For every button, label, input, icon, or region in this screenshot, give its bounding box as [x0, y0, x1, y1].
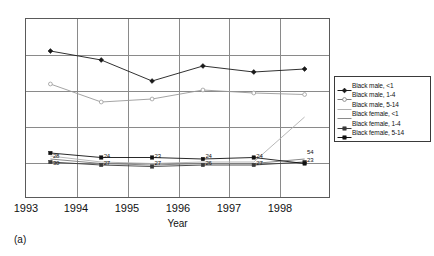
legend-label: Black male, 5-14 [352, 100, 399, 109]
data-point-marker [99, 58, 104, 63]
legend-marker-line-icon [337, 109, 352, 118]
point-label-upper: 23 [155, 153, 161, 159]
data-point-marker [303, 162, 306, 165]
xtick-1997: 1997 [204, 202, 254, 214]
legend-label: Black female, <1 [352, 109, 399, 118]
data-point-marker [201, 64, 206, 69]
point-label-upper: 24 [205, 153, 211, 159]
point-label-upper: 24 [104, 153, 110, 159]
xtick-1993: 1993 [1, 202, 51, 214]
data-point-marker [150, 97, 154, 101]
legend-label: Black female, 1-4 [352, 119, 401, 128]
data-point-marker [302, 67, 307, 72]
legend-marker-filled-square-icon [337, 128, 352, 137]
data-point-marker [150, 165, 153, 168]
figure-caption: (a) [14, 234, 26, 245]
legend-marker-line-icon [337, 100, 352, 109]
legend-marker-filled-diamond-icon [337, 81, 352, 90]
data-point-marker [100, 156, 103, 159]
point-label-upper: 24 [256, 153, 262, 159]
data-point-marker [252, 91, 256, 95]
data-point-marker [48, 49, 53, 54]
data-point-marker [201, 88, 205, 92]
xtick-1994: 1994 [51, 202, 101, 214]
xtick-1995: 1995 [102, 202, 152, 214]
legend-marker-filled-square-icon [337, 119, 352, 128]
legend-item[interactable]: Black male, 5-14 [337, 100, 428, 109]
legend-label: Black male, <1 [352, 81, 393, 90]
point-label-lower: 27 [104, 160, 110, 166]
legend-label: Black male, 1-4 [352, 90, 395, 99]
data-point-marker [201, 157, 204, 160]
data-point-marker [49, 151, 52, 154]
legend-marker-open-circle-icon [337, 90, 352, 99]
data-point-marker [49, 82, 53, 86]
point-label-lower: 30 [53, 160, 59, 166]
legend-label: Black female, 5-14 [352, 128, 404, 137]
xtick-1996: 1996 [153, 202, 203, 214]
data-point-marker [251, 70, 256, 75]
series-layer [25, 18, 330, 198]
point-label-lower: 26 [205, 160, 211, 166]
series-line [50, 51, 304, 81]
figure-panel-a: 282423242454302727262723 1993 1994 1995 … [0, 0, 434, 256]
data-point-marker [100, 163, 103, 166]
data-point-marker [150, 156, 153, 159]
legend-item[interactable]: Black male, <1 [337, 81, 428, 90]
point-label-lower: 27 [155, 160, 161, 166]
data-point-marker [99, 100, 103, 104]
data-point-marker [201, 163, 204, 166]
legend-item[interactable]: Black female, <1 [337, 109, 428, 118]
data-point-marker [252, 156, 255, 159]
data-point-marker [49, 160, 52, 163]
legend-item[interactable]: Black male, 1-4 [337, 90, 428, 99]
legend-item[interactable]: Black female, 1-4 [337, 119, 428, 128]
data-point-marker [303, 93, 307, 97]
data-point-marker [150, 79, 155, 84]
data-point-marker [252, 163, 255, 166]
point-label-upper: 54 [307, 149, 313, 155]
x-axis-title: Year [25, 218, 330, 229]
point-label-lower: 23 [307, 157, 313, 163]
legend: Black male, <1Black male, 1-4Black male,… [334, 76, 431, 142]
xtick-1998: 1998 [255, 202, 305, 214]
legend-item[interactable]: Black female, 5-14 [337, 128, 428, 137]
point-label-upper: 28 [53, 153, 59, 159]
series-line [50, 84, 304, 102]
point-label-lower: 27 [256, 160, 262, 166]
